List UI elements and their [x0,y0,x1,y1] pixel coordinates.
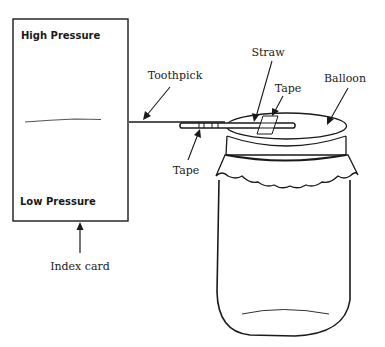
tape-bottom-label: Tape [173,164,200,177]
straw-label: Straw [251,46,285,59]
index-card-arrow-icon [77,222,84,253]
jar [216,113,358,336]
toothpick-arrow-icon [143,85,176,120]
barometer-diagram: High Pressure Low Pressure Index card [0,0,385,347]
balloon-label: Balloon [324,72,366,85]
toothpick-label: Toothpick [148,69,203,82]
high-pressure-label: High Pressure [21,30,101,41]
index-card: High Pressure Low Pressure [13,19,128,221]
straw-arrow-icon [252,61,272,122]
tape-top-label: Tape [275,82,302,95]
low-pressure-label: Low Pressure [20,196,96,207]
index-card-caption: Index card [50,260,110,273]
tape-bottom-arrow-icon [188,129,201,160]
